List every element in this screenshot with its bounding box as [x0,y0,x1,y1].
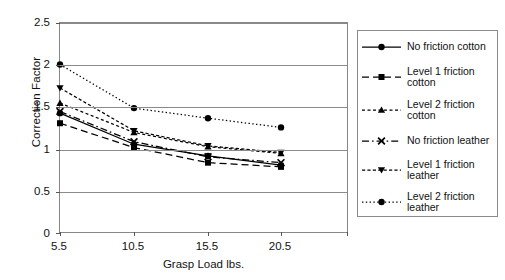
y-tick-label: 0 [22,228,50,238]
legend-key-no-friction-leather [358,134,405,148]
legend-item[interactable]: Level 2 frictioncotton [358,96,497,124]
y-tick-label: 1 [22,144,50,154]
legend-label: Level 1 frictionleather [405,159,475,182]
x-tick-mark [134,232,135,236]
y-tick-label: 2.5 [22,17,50,27]
data-point-marker [205,160,211,166]
data-point-marker [57,120,63,126]
x-tick-mark [347,232,348,236]
gridline [60,65,347,66]
series-line [60,64,281,127]
x-tick-label: 15.5 [177,240,237,252]
y-tick-mark [56,107,60,108]
y-tick-label: 1.5 [22,101,50,111]
data-point-marker [205,115,211,121]
y-tick-label: 2 [22,59,50,69]
legend-label: Level 1 frictioncotton [405,66,475,89]
y-tick-mark [56,65,60,66]
y-tick-mark [56,23,60,24]
legend-label: Level 2 frictionleather [405,191,475,214]
data-point-marker [278,124,284,130]
legend-label: Level 2 frictioncotton [405,99,475,122]
y-tick-label: 0.5 [22,186,50,196]
x-tick-mark [281,232,282,236]
y-tick-mark [56,192,60,193]
legend-label: No friction cotton [405,41,486,53]
legend-key-level-1-friction-leather [358,163,405,177]
gridline [60,150,347,151]
gridline [60,107,347,108]
chart-figure: Correction Factor 2.5 2 1.5 1 0.5 0 5.5 … [0,0,505,280]
legend-item[interactable]: No friction cotton [358,36,497,58]
x-tick-mark [60,232,61,236]
series-line [60,103,281,153]
legend-item[interactable]: Level 2 frictionleather [358,188,497,216]
plot-area [59,22,348,233]
legend-item[interactable]: No friction leather [358,130,497,152]
chart-legend: No friction cotton Level 1 frictioncotto… [357,30,498,217]
legend-key-level-2-friction-cotton [358,103,405,117]
legend-key-no-friction-cotton [358,40,405,54]
legend-label: No friction leather [405,135,489,147]
gridline [60,23,347,24]
y-axis-tick-labels: 2.5 2 1.5 1 0.5 0 [18,0,50,280]
series-line [60,88,281,153]
legend-key-level-2-friction-leather [358,195,405,209]
data-point-marker [56,99,63,105]
y-tick-mark [56,150,60,151]
data-point-marker [56,85,63,91]
data-series-layer [60,23,349,234]
x-tick-label: 5.5 [29,240,89,252]
x-tick-mark [208,232,209,236]
x-tick-label: 10.5 [103,240,163,252]
x-tick-label: 20.5 [250,240,310,252]
legend-item[interactable]: Level 1 frictionleather [358,156,497,184]
legend-key-level-1-friction-cotton [358,70,405,84]
legend-item[interactable]: Level 1 frictioncotton [358,63,497,91]
x-axis-title: Grasp Load lbs. [59,258,348,270]
gridline [60,192,347,193]
